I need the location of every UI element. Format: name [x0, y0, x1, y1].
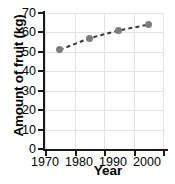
data-point-marker	[86, 35, 93, 42]
gridline-vertical	[104, 13, 105, 149]
y-axis-tick	[38, 109, 43, 111]
y-axis-tick-label: 50	[0, 46, 36, 59]
y-axis-tick	[38, 129, 43, 131]
x-axis-title: Year	[41, 163, 175, 178]
y-axis-tick-label: 40	[0, 65, 36, 78]
y-axis-tick-label: 70	[0, 7, 36, 20]
gridline-vertical	[75, 13, 76, 149]
y-axis-tick	[38, 90, 43, 92]
y-axis-tick	[38, 31, 43, 33]
gridline-vertical	[163, 13, 164, 149]
plot-area	[45, 13, 163, 149]
y-axis-tick	[38, 148, 43, 150]
y-axis-tick	[38, 12, 43, 14]
fruit-amount-line-chart: Amount of fruit (kg) 70 60 50 40 30 20 1…	[0, 0, 175, 184]
data-point-marker	[145, 21, 152, 28]
y-axis-tick-label: 0	[0, 143, 36, 156]
y-axis-tick-label: 60	[0, 26, 36, 39]
y-axis-tick-label: 20	[0, 104, 36, 117]
y-axis-tick	[38, 51, 43, 53]
y-axis-tick-label: 30	[0, 85, 36, 98]
gridline-vertical	[45, 13, 46, 149]
gridline-vertical	[134, 13, 135, 149]
y-axis-tick-label: 10	[0, 124, 36, 137]
y-axis-line	[43, 11, 45, 151]
y-axis-tick	[38, 70, 43, 72]
